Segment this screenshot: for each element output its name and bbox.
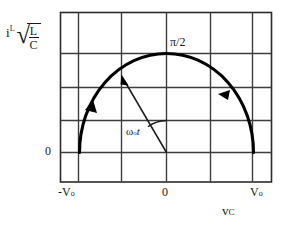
x-tick-label-minus-vo: -Vo <box>58 186 75 198</box>
x-tick-label-zero: 0 <box>162 186 168 198</box>
phase-plane-figure: iL √ L C vC π/2 0 -Vo 0 Vo ωot <box>0 0 288 234</box>
x-tick-label-minus-vo-main: -V <box>58 185 71 199</box>
angle-label: ωot <box>126 126 140 137</box>
fraction-numerator: L <box>29 24 39 38</box>
y-axis-label: iL √ L C <box>6 22 41 51</box>
radius-vector-arrowhead-icon <box>121 75 129 86</box>
x-axis-label: vC <box>222 204 235 217</box>
apex-angle-label: π/2 <box>170 36 185 48</box>
radius-vector <box>121 75 167 153</box>
x-tick-label-plus-vo-sub: o <box>259 189 263 198</box>
x-tick-label-plus-vo-main: V <box>250 185 259 199</box>
angle-label-suffix: t <box>137 125 140 137</box>
x-tick-label-plus-vo: Vo <box>250 186 263 198</box>
x-tick-label-minus-vo-sub: o <box>71 189 75 198</box>
direction-arrow-right-icon <box>218 90 230 100</box>
y-axis-label-subscript: L <box>10 25 15 33</box>
radical-group: √ L C <box>17 22 41 51</box>
fraction-l-over-c: L C <box>27 23 41 52</box>
fraction-denominator: C <box>29 39 39 52</box>
y-axis-origin-tick-label: 0 <box>45 145 51 157</box>
x-axis-label-subscript: C <box>229 207 235 217</box>
plot-canvas <box>0 0 288 234</box>
